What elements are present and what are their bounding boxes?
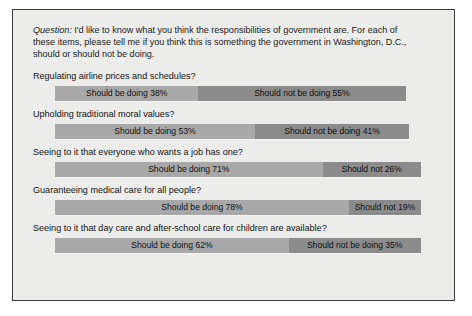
bar-segment-label: Should not 26% [341,164,401,174]
bar-track: Should be doing 53%Should not be doing 4… [55,124,440,139]
chart-row: Upholding traditional moral values?Shoul… [33,109,440,139]
figure-content: Question: I'd like to know what you thin… [33,24,440,290]
bar-segment-label: Should not be doing 41% [284,126,380,136]
bar-segment-label: Should be doing 38% [86,88,167,98]
question-text: I'd like to know what you think the resp… [33,25,406,59]
bar-track: Should be doing 78%Should not 19% [55,200,440,215]
bar-track: Should be doing 71%Should not 26% [55,162,440,177]
stacked-bar: Should be doing 38%Should not be doing 5… [55,86,406,101]
bar-segment-should-not-be-doing: Should not be doing 55% [198,86,405,101]
bar-segment-label: Should be doing 53% [114,126,195,136]
question-label: Question: [33,25,72,35]
chart-row-label: Regulating airline prices and schedules? [33,71,440,82]
stacked-bar: Should be doing 53%Should not be doing 4… [55,124,409,139]
chart-row: Regulating airline prices and schedules?… [33,71,440,101]
bar-segment-label: Should not be doing 55% [254,88,350,98]
chart-row: Seeing to it that day care and after-sch… [33,223,440,253]
chart-row-label: Seeing to it that day care and after-sch… [33,223,440,234]
stacked-bar: Should be doing 78%Should not 19% [55,200,421,215]
bar-segment-label: Should be doing 62% [131,240,212,250]
bar-segment-label: Should not be doing 35% [307,240,403,250]
figure-panel: Question: I'd like to know what you thin… [12,9,455,301]
bar-segment-label: Should be doing 71% [148,164,229,174]
chart-row-label: Seeing to it that everyone who wants a j… [33,147,440,158]
bar-segment-should-not-be-doing: Should not 19% [349,200,421,215]
bar-segment-should-not-be-doing: Should not 26% [323,162,421,177]
bar-segment-should-be-doing: Should be doing 71% [55,162,323,177]
bar-segment-should-not-be-doing: Should not be doing 41% [255,124,410,139]
bar-segment-label: Should not 19% [355,202,415,212]
bar-segment-label: Should be doing 78% [161,202,242,212]
stacked-bar: Should be doing 71%Should not 26% [55,162,421,177]
bar-track: Should be doing 38%Should not be doing 5… [55,86,440,101]
stacked-bar-chart: Regulating airline prices and schedules?… [33,71,440,253]
chart-row: Guaranteeing medical care for all people… [33,185,440,215]
chart-row-label: Upholding traditional moral values? [33,109,440,120]
chart-row: Seeing to it that everyone who wants a j… [33,147,440,177]
stacked-bar: Should be doing 62%Should not be doing 3… [55,238,421,253]
bar-segment-should-be-doing: Should be doing 62% [55,238,289,253]
bar-segment-should-not-be-doing: Should not be doing 35% [289,238,421,253]
bar-track: Should be doing 62%Should not be doing 3… [55,238,440,253]
chart-row-label: Guaranteeing medical care for all people… [33,185,440,196]
bar-segment-should-be-doing: Should be doing 38% [55,86,198,101]
bar-segment-should-be-doing: Should be doing 78% [55,200,349,215]
bar-segment-should-be-doing: Should be doing 53% [55,124,255,139]
question-prompt: Question: I'd like to know what you thin… [33,24,418,60]
